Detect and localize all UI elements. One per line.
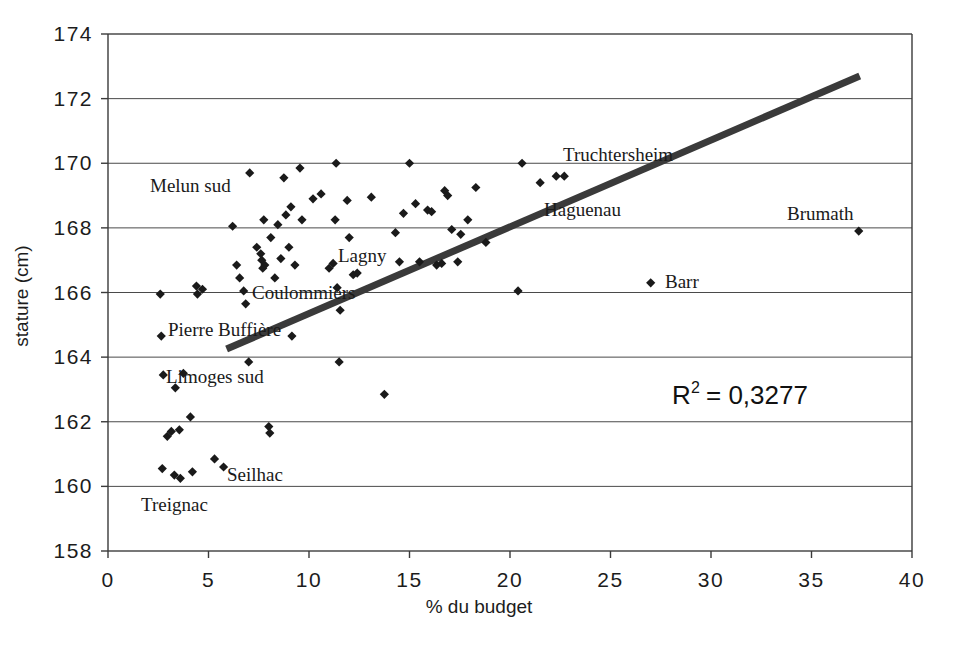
data-point — [646, 278, 655, 287]
point-annotations: Melun sudTruchtersheimHaguenauBrumathLag… — [141, 144, 854, 515]
data-point — [241, 299, 250, 308]
data-point — [297, 215, 306, 224]
data-point — [279, 173, 288, 182]
data-point — [265, 428, 274, 437]
data-point — [157, 332, 166, 341]
data-point — [266, 233, 275, 242]
r-squared-exponent: 2 — [691, 379, 700, 396]
annotation-lagny: Lagny — [338, 245, 387, 266]
data-point — [228, 222, 237, 231]
data-point — [286, 202, 295, 211]
y-tick-label: 160 — [53, 474, 93, 497]
r-squared-annotation: R 2 = 0,3277 — [672, 379, 808, 410]
y-tick-label: 164 — [53, 345, 93, 368]
data-point — [158, 464, 167, 473]
x-tick-label: 30 — [698, 568, 724, 591]
data-point — [517, 159, 526, 168]
annotation-coulommiers: Coulommiers — [252, 282, 355, 303]
y-tick-label: 172 — [53, 87, 93, 110]
y-axis-ticks — [101, 34, 108, 551]
data-point — [259, 215, 268, 224]
chart-svg: 158160162164166168170172174 051015202530… — [0, 0, 957, 654]
data-point — [276, 254, 285, 263]
data-point — [336, 306, 345, 315]
annotation-brumath: Brumath — [787, 203, 854, 224]
data-point — [235, 273, 244, 282]
data-point — [411, 199, 420, 208]
data-point — [345, 233, 354, 242]
data-point — [290, 260, 299, 269]
x-tick-label: 5 — [202, 568, 215, 591]
annotation-truchtersheim: Truchtersheim — [563, 144, 673, 165]
data-point — [188, 467, 197, 476]
scatter-chart: 158160162164166168170172174 051015202530… — [0, 0, 957, 654]
data-point — [284, 243, 293, 252]
data-point — [456, 230, 465, 239]
data-point — [281, 210, 290, 219]
annotation-melun-sud: Melun sud — [150, 175, 231, 196]
data-point — [232, 260, 241, 269]
x-tick-label: 20 — [497, 568, 523, 591]
y-tick-label: 158 — [53, 539, 93, 562]
annotation-pierre-buffiere: Pierre Buffière — [168, 319, 281, 340]
x-axis-ticks — [108, 551, 912, 558]
data-point — [316, 189, 325, 198]
x-tick-label: 15 — [396, 568, 422, 591]
r-squared-value: = 0,3277 — [706, 380, 808, 410]
data-point — [245, 168, 254, 177]
data-point — [156, 290, 165, 299]
data-point — [453, 257, 462, 266]
data-point — [367, 193, 376, 202]
y-tick-label: 166 — [53, 281, 93, 304]
data-point — [175, 425, 184, 434]
x-axis-title: % du budget — [426, 596, 533, 617]
data-point — [239, 286, 248, 295]
data-point — [536, 178, 545, 187]
r-squared-label: R — [672, 380, 691, 410]
data-point — [332, 159, 341, 168]
data-point — [391, 228, 400, 237]
y-axis-tick-labels: 158160162164166168170172174 — [53, 22, 93, 562]
annotation-seilhac: Seilhac — [227, 464, 283, 485]
data-point — [552, 172, 561, 181]
data-point — [186, 412, 195, 421]
x-tick-label: 10 — [296, 568, 322, 591]
data-point — [513, 286, 522, 295]
data-point — [308, 194, 317, 203]
x-tick-label: 40 — [899, 568, 925, 591]
annotation-barr: Barr — [665, 271, 699, 292]
data-point — [395, 257, 404, 266]
data-point — [471, 183, 480, 192]
data-point — [335, 357, 344, 366]
data-point — [380, 390, 389, 399]
x-tick-label: 35 — [798, 568, 824, 591]
annotation-limoges-sud: Limoges sud — [166, 366, 264, 387]
y-axis-title: stature (cm) — [11, 245, 32, 346]
data-point — [295, 163, 304, 172]
x-tick-label: 0 — [101, 568, 114, 591]
data-point — [463, 215, 472, 224]
annotation-treignac: Treignac — [141, 494, 208, 515]
data-point — [287, 332, 296, 341]
x-axis-tick-labels: 0510152025303540 — [101, 568, 925, 591]
data-point — [343, 196, 352, 205]
data-point — [210, 454, 219, 463]
data-point — [447, 225, 456, 234]
data-point — [399, 209, 408, 218]
y-tick-label: 174 — [53, 22, 93, 45]
annotation-haguenau: Haguenau — [544, 199, 622, 220]
y-tick-label: 170 — [53, 151, 93, 174]
y-tick-label: 168 — [53, 216, 93, 239]
data-point — [560, 172, 569, 181]
data-point — [331, 215, 340, 224]
y-tick-label: 162 — [53, 410, 93, 433]
x-tick-label: 25 — [597, 568, 623, 591]
data-point — [405, 159, 414, 168]
